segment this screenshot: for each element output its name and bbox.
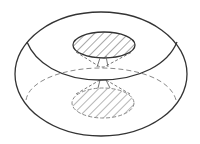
background xyxy=(0,0,200,144)
torus-diagram xyxy=(0,0,200,144)
